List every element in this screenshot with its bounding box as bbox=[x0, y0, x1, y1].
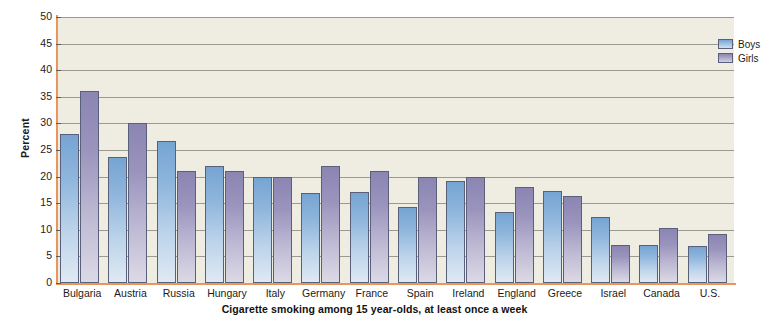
y-axis-tick-label: 0 bbox=[12, 276, 52, 288]
bar-group bbox=[348, 17, 396, 283]
x-axis-tick-label: Israel bbox=[589, 287, 637, 299]
bar-girls bbox=[177, 171, 196, 283]
bar-girls bbox=[659, 228, 678, 283]
bar-boys bbox=[350, 192, 369, 284]
bar-boys bbox=[398, 207, 417, 283]
bar-group bbox=[444, 17, 492, 283]
bar-girls bbox=[466, 177, 485, 283]
x-axis-labels: BulgariaAustriaRussiaHungaryItalyGermany… bbox=[58, 287, 734, 303]
y-axis-tick-label: 30 bbox=[12, 116, 52, 128]
bar-girls bbox=[418, 177, 437, 283]
bar-group bbox=[251, 17, 299, 283]
y-axis-tick-label: 10 bbox=[12, 223, 52, 235]
bar-boys bbox=[157, 141, 176, 283]
bar-girls bbox=[225, 171, 244, 283]
x-axis-tick-label: Canada bbox=[637, 287, 685, 299]
bar-group bbox=[541, 17, 589, 283]
bar-group bbox=[106, 17, 154, 283]
bar-boys bbox=[60, 134, 79, 283]
x-axis-tick-label: Spain bbox=[396, 287, 444, 299]
x-axis-tick-label: U.S. bbox=[686, 287, 734, 299]
bar-boys bbox=[495, 212, 514, 283]
source-note bbox=[6, 322, 526, 330]
bar-girls bbox=[273, 177, 292, 283]
x-axis-tick-label: Bulgaria bbox=[58, 287, 106, 299]
x-axis-tick-label: England bbox=[493, 287, 541, 299]
legend-label: Girls bbox=[738, 53, 759, 64]
bar-group bbox=[637, 17, 685, 283]
bar-group bbox=[396, 17, 444, 283]
bar-group bbox=[493, 17, 541, 283]
bar-girls bbox=[370, 171, 389, 283]
chart-title: Cigarette smoking among 15 year-olds, at… bbox=[0, 303, 749, 315]
bar-boys bbox=[543, 191, 562, 283]
bars-layer bbox=[58, 17, 734, 283]
bar-boys bbox=[639, 245, 658, 283]
bar-group bbox=[58, 17, 106, 283]
x-axis-tick-label: Austria bbox=[106, 287, 154, 299]
bar-girls bbox=[515, 187, 534, 283]
bar-boys bbox=[301, 193, 320, 283]
bar-girls bbox=[80, 91, 99, 283]
x-axis-tick-label: Italy bbox=[251, 287, 299, 299]
x-axis-tick-label: Greece bbox=[541, 287, 589, 299]
bar-boys bbox=[205, 166, 224, 283]
x-axis-tick-label: Hungary bbox=[203, 287, 251, 299]
bar-girls bbox=[563, 196, 582, 283]
x-axis-tick-label: Russia bbox=[155, 287, 203, 299]
bar-group bbox=[155, 17, 203, 283]
bar-group bbox=[686, 17, 734, 283]
bar-boys bbox=[591, 217, 610, 283]
bar-boys bbox=[108, 157, 127, 283]
bar-boys bbox=[446, 181, 465, 283]
bar-boys bbox=[253, 177, 272, 283]
bar-girls bbox=[321, 166, 340, 283]
y-axis-tick-label: 50 bbox=[12, 10, 52, 22]
y-axis-tick-label: 20 bbox=[12, 170, 52, 182]
bar-group bbox=[299, 17, 347, 283]
x-axis-tick-label: Germany bbox=[299, 287, 347, 299]
y-axis-ticks: 05101520253035404550 bbox=[8, 0, 52, 330]
x-axis-tick-label: Ireland bbox=[444, 287, 492, 299]
bar-girls bbox=[708, 234, 727, 283]
y-axis-tick-label: 40 bbox=[12, 63, 52, 75]
x-axis-tick-label: France bbox=[348, 287, 396, 299]
legend-label: Boys bbox=[738, 39, 760, 50]
y-axis-tick-label: 15 bbox=[12, 196, 52, 208]
bar-group bbox=[203, 17, 251, 283]
bar-boys bbox=[688, 246, 707, 283]
x-axis-line bbox=[56, 283, 736, 285]
y-axis-tick-label: 45 bbox=[12, 37, 52, 49]
bar-group bbox=[589, 17, 637, 283]
y-axis-tick-mark bbox=[56, 283, 61, 284]
bar-girls bbox=[128, 123, 147, 283]
bar-girls bbox=[611, 245, 630, 283]
y-axis-tick-label: 35 bbox=[12, 90, 52, 102]
y-axis-tick-label: 5 bbox=[12, 249, 52, 261]
y-axis-tick-label: 25 bbox=[12, 143, 52, 155]
